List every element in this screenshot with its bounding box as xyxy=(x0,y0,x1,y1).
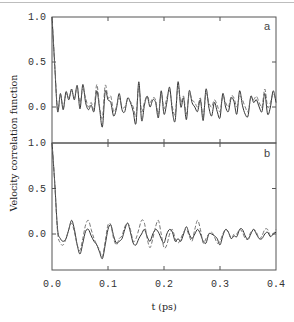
panel-a-solid-line xyxy=(52,17,276,127)
panel-b-ytick-1: 1.0 xyxy=(28,138,46,149)
x-tick-labels: 0.0 0.1 0.2 0.3 0.4 xyxy=(43,279,285,290)
xtick-2: 0.2 xyxy=(155,279,173,290)
xtick-0: 0.0 xyxy=(43,279,61,290)
panel-b-label: b xyxy=(264,147,270,159)
panel-a: 1.0 0.5 0.0 a xyxy=(28,12,276,143)
x-axis-label: t (ps) xyxy=(151,301,176,312)
xtick-4: 0.4 xyxy=(267,279,285,290)
xtick-3: 0.3 xyxy=(211,279,229,290)
panel-b-solid-line xyxy=(52,143,276,259)
panel-a-ticks xyxy=(52,17,276,143)
panel-b-dashed-line xyxy=(52,143,276,257)
panel-b-frame xyxy=(52,143,276,270)
xtick-1: 0.1 xyxy=(99,279,117,290)
panel-b: 1.0 0.5 0.0 b xyxy=(28,138,276,270)
panel-b-ticks xyxy=(52,143,276,270)
panel-a-frame xyxy=(52,17,276,143)
y-axis-label: Velocity correlation function xyxy=(8,75,19,213)
panel-a-ytick-3: 0.0 xyxy=(28,102,46,113)
panel-b-ytick-2: 0.5 xyxy=(28,184,46,195)
panel-a-ytick-2: 0.5 xyxy=(28,57,46,68)
panel-b-ytick-3: 0.0 xyxy=(28,229,46,240)
velocity-correlation-chart: 1.0 0.5 0.0 a 1.0 0.5 0.0 b 0.0 0.1 0.2 … xyxy=(0,0,294,322)
panel-a-ytick-1: 1.0 xyxy=(28,12,46,23)
panel-a-label: a xyxy=(264,20,271,32)
